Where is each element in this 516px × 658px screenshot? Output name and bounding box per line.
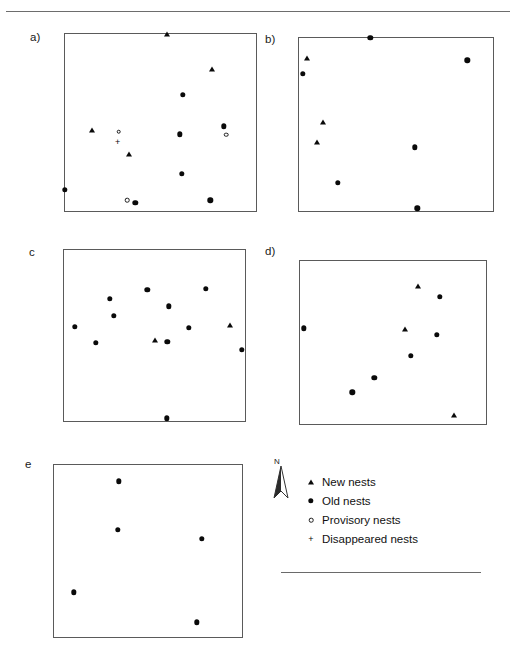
old-nest-marker bbox=[368, 35, 373, 40]
old-nest-marker bbox=[164, 339, 169, 344]
new-nest-marker bbox=[209, 67, 215, 72]
disappeared-nest-marker bbox=[114, 139, 121, 146]
old-nest-marker bbox=[207, 198, 212, 203]
panel-label-c: c bbox=[29, 246, 35, 258]
old-nest-marker bbox=[301, 325, 306, 330]
legend-symbol-prov bbox=[300, 510, 322, 529]
new-nest-marker bbox=[314, 139, 320, 144]
old-nest-marker bbox=[62, 187, 67, 192]
old-nest-marker bbox=[116, 479, 121, 484]
old-nest-marker bbox=[199, 536, 204, 541]
legend-label-prov: Provisory nests bbox=[322, 514, 401, 526]
panel-label-e: e bbox=[25, 458, 32, 470]
legend-symbol-dis bbox=[300, 529, 322, 548]
old-nest-marker bbox=[111, 313, 116, 318]
legend: New nestsOld nestsProvisory nestsDisappe… bbox=[300, 472, 500, 548]
panel-b bbox=[298, 37, 494, 212]
panel-label-d: d) bbox=[265, 245, 276, 257]
old-nest-marker bbox=[412, 145, 417, 150]
new-nest-marker bbox=[415, 284, 421, 289]
bottom-divider bbox=[281, 572, 481, 573]
old-nest-marker bbox=[166, 304, 171, 309]
top-divider bbox=[6, 11, 510, 12]
panel-label-a: a) bbox=[30, 31, 41, 43]
old-nest-marker bbox=[372, 375, 377, 380]
old-nest-marker bbox=[133, 200, 138, 205]
old-nest-marker bbox=[177, 131, 182, 136]
legend-label-dis: Disappeared nests bbox=[322, 533, 418, 545]
provisory-nest-marker bbox=[116, 129, 121, 134]
new-nest-marker bbox=[152, 337, 158, 342]
north-arrow-icon: N bbox=[268, 458, 294, 504]
panel-d bbox=[299, 260, 487, 425]
old-nest-marker bbox=[437, 294, 442, 299]
old-nest-marker bbox=[72, 324, 77, 329]
old-nest-marker bbox=[186, 325, 191, 330]
new-nest-marker bbox=[308, 480, 314, 485]
new-nest-marker bbox=[451, 413, 457, 418]
panel-a bbox=[64, 33, 257, 212]
new-nest-marker bbox=[89, 127, 95, 132]
figure-root: a)b)cd)e N New nestsOld nestsProvisory n… bbox=[0, 0, 516, 658]
provisory-nest-marker bbox=[224, 133, 229, 138]
old-nest-marker bbox=[335, 180, 340, 185]
new-nest-marker bbox=[126, 152, 132, 157]
legend-symbol-old bbox=[300, 491, 322, 510]
old-nest-marker bbox=[194, 620, 199, 625]
old-nest-marker bbox=[93, 340, 98, 345]
old-nest-marker bbox=[350, 390, 355, 395]
old-nest-marker bbox=[180, 92, 185, 97]
old-nest-marker bbox=[300, 71, 305, 76]
panel-c bbox=[63, 249, 246, 422]
legend-item-old: Old nests bbox=[300, 491, 500, 510]
north-label: N bbox=[274, 457, 280, 466]
old-nest-marker bbox=[203, 286, 208, 291]
panel-label-b: b) bbox=[265, 33, 276, 45]
old-nest-marker bbox=[107, 296, 112, 301]
disappeared-nest-marker bbox=[308, 536, 315, 543]
legend-label-old: Old nests bbox=[322, 495, 371, 507]
legend-item-prov: Provisory nests bbox=[300, 510, 500, 529]
new-nest-marker bbox=[402, 327, 408, 332]
old-nest-marker bbox=[239, 347, 244, 352]
old-nest-marker bbox=[115, 527, 120, 532]
provisory-nest-marker bbox=[125, 198, 130, 203]
old-nest-marker bbox=[465, 58, 470, 63]
new-nest-marker bbox=[164, 32, 170, 37]
new-nest-marker bbox=[320, 119, 326, 124]
old-nest-marker bbox=[308, 498, 313, 503]
old-nest-marker bbox=[71, 590, 76, 595]
provisory-nest-marker bbox=[309, 518, 314, 523]
old-nest-marker bbox=[179, 171, 184, 176]
new-nest-marker bbox=[227, 323, 233, 328]
panel-e bbox=[53, 464, 243, 638]
old-nest-marker bbox=[434, 332, 439, 337]
old-nest-marker bbox=[145, 287, 150, 292]
new-nest-marker bbox=[304, 55, 310, 60]
legend-item-dis: Disappeared nests bbox=[300, 529, 500, 548]
old-nest-marker bbox=[221, 124, 226, 129]
old-nest-marker bbox=[415, 206, 420, 211]
old-nest-marker bbox=[408, 353, 413, 358]
legend-item-new: New nests bbox=[300, 472, 500, 491]
legend-symbol-new bbox=[300, 472, 322, 491]
legend-label-new: New nests bbox=[322, 476, 376, 488]
old-nest-marker bbox=[164, 416, 169, 421]
